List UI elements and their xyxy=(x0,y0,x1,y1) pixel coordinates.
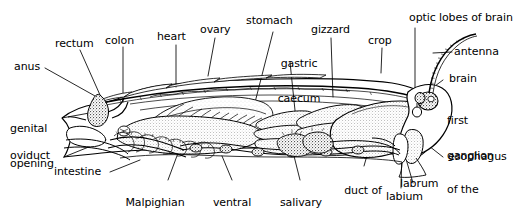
grasshopper-anatomy-figure: anus rectum colon heart ovary stomach ga… xyxy=(0,0,524,219)
label-colon: colon xyxy=(105,35,134,47)
label-gastric-caecum: gastric caecum xyxy=(268,35,330,127)
label-stomach: stomach xyxy=(246,15,293,27)
label-gastric-caecum-line1: gastric xyxy=(268,58,330,70)
label-malpighian-line1: Malpighian xyxy=(118,197,192,209)
label-labrum: labrum xyxy=(400,178,438,190)
label-anus: anus xyxy=(14,61,40,73)
label-antenna: antenna xyxy=(454,46,499,58)
label-malpighian-tubules: Malpighian tubules xyxy=(118,174,192,219)
label-ventral-nerve-cord-line1: ventral xyxy=(196,197,268,209)
label-salivary-gland: salivary gland xyxy=(272,174,330,219)
label-salivary-gland-line1: salivary xyxy=(272,197,330,209)
label-duct-salivary-line1: duct of xyxy=(334,185,392,197)
label-first-ganglion-line1: first xyxy=(447,115,505,127)
label-labium: labium xyxy=(386,191,423,203)
label-oviduct: oviduct xyxy=(10,150,50,162)
label-genital-opening-line1: genital xyxy=(10,123,54,135)
label-genital-opening: genital opening xyxy=(10,100,54,192)
label-first-ganglion-line4: nerve cord xyxy=(447,219,505,220)
label-crop: crop xyxy=(368,35,392,47)
label-ventral-nerve-cord: ventral nerve cord xyxy=(196,174,268,219)
label-duct-of-salivary-gland: duct of salivary gland xyxy=(334,162,392,219)
label-first-ganglion-line3: of the xyxy=(447,184,505,196)
label-optic-lobes-of-brain: optic lobes of brain xyxy=(409,12,513,24)
genital-opening-oviduct xyxy=(64,126,130,160)
label-heart: heart xyxy=(157,31,186,43)
label-esophagus: esophagus xyxy=(448,151,507,163)
label-intestine: intestine xyxy=(54,166,101,178)
label-ovary: ovary xyxy=(200,24,231,36)
label-brain: brain xyxy=(449,73,477,85)
label-gastric-caecum-line2: caecum xyxy=(268,93,330,105)
label-rectum: rectum xyxy=(55,38,94,50)
label-gizzard: gizzard xyxy=(311,24,350,36)
